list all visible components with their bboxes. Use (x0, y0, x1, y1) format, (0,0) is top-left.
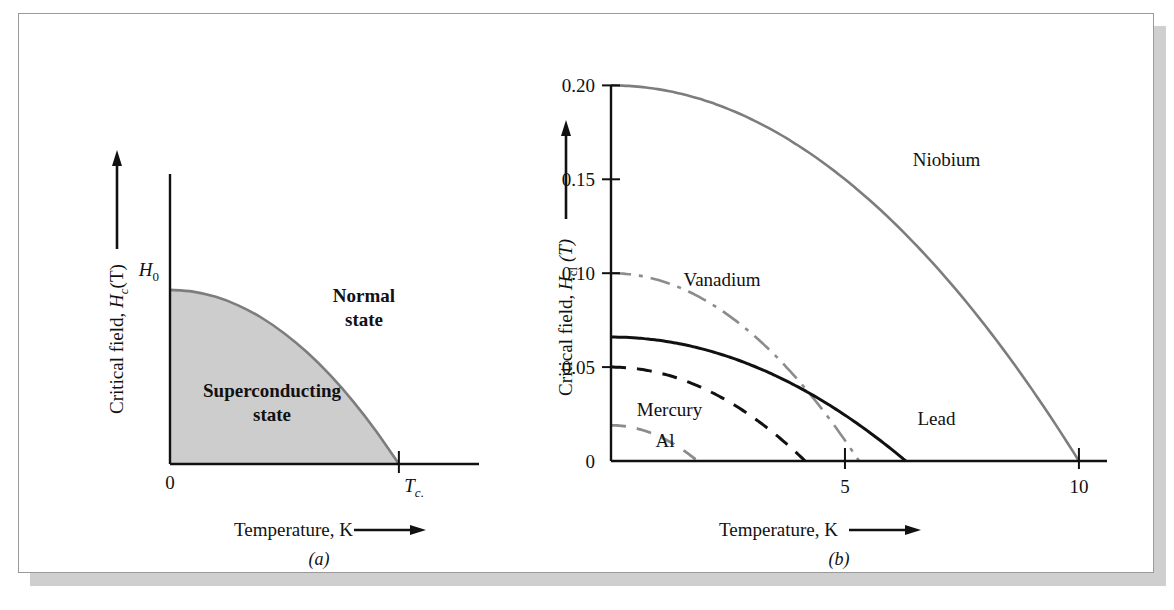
panel-a-plot: Critical field, Hc(T) H0 0 Tc. Normal st… (19, 14, 539, 574)
x-tick-label-10: 10 (1069, 476, 1088, 497)
panel-a: Critical field, Hc(T) H0 0 Tc. Normal st… (19, 14, 539, 572)
tc-tick-label: Tc. (404, 475, 424, 500)
h0-tick-label: H0 (138, 259, 159, 284)
curve-label-mercury: Mercury (637, 399, 703, 420)
figure-root: Critical field, Hc(T) H0 0 Tc. Normal st… (0, 0, 1174, 610)
curve-al (611, 425, 698, 461)
panel-a-origin-label: 0 (165, 472, 175, 493)
curve-label-al: Al (655, 430, 674, 451)
panel-a-letter: (a) (309, 549, 330, 570)
normal-state-label-line2: state (345, 309, 383, 330)
superconducting-state-label-line2: state (253, 404, 291, 425)
panel-b-plot: NiobiumVanadiumLeadMercuryAl 00.050.100.… (539, 14, 1155, 574)
panel-a-y-axis-arrow (112, 150, 122, 249)
superconducting-state-label: Superconducting (203, 380, 341, 401)
normal-state-label: Normal (333, 285, 395, 306)
panel-a-x-axis-arrow (354, 525, 426, 535)
curve-label-vanadium: Vanadium (684, 269, 761, 290)
panel-b-ticks-group: 00.050.100.150.20510 (562, 75, 1089, 497)
panel-b-letter: (b) (829, 549, 850, 570)
panel-a-x-axis-title: Temperature, K (234, 519, 353, 540)
panel-b-x-axis-title: Temperature, K (719, 519, 838, 540)
y-tick-label-0: 0 (586, 451, 596, 472)
element-curve-labels-group: NiobiumVanadiumLeadMercuryAl (637, 149, 981, 451)
panel-a-y-axis-title: Critical field, Hc(T) (106, 264, 131, 414)
figure-frame: Critical field, Hc(T) H0 0 Tc. Normal st… (18, 13, 1154, 573)
y-tick-label-0.20: 0.20 (562, 75, 595, 96)
panel-b: NiobiumVanadiumLeadMercuryAl 00.050.100.… (539, 14, 1155, 572)
x-tick-label-5: 5 (840, 476, 850, 497)
panel-b-x-axis-arrow (849, 525, 921, 535)
curve-label-niobium: Niobium (913, 149, 981, 170)
curve-label-lead: Lead (917, 408, 955, 429)
